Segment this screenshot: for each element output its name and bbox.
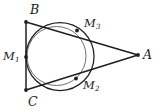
geometry-svg [0, 0, 160, 111]
segment-CA [26, 55, 138, 90]
tangent-point-M3 [75, 29, 79, 33]
label-M2: M2 [83, 80, 99, 92]
label-B: B [30, 4, 39, 17]
tangent-point-M1 [24, 55, 28, 59]
vertex-point-C [24, 88, 28, 92]
label-C: C [28, 96, 38, 109]
label-A: A [143, 49, 152, 62]
vertex-point-A [136, 53, 140, 57]
tangent-point-M2 [74, 77, 78, 81]
segment-BA [26, 22, 138, 55]
second-circle [27, 27, 86, 86]
geometry-figure-canvas: A B C M1 M2 M3 [0, 0, 160, 111]
vertex-point-B [24, 20, 28, 24]
label-M3: M3 [84, 18, 100, 30]
label-M1: M1 [3, 51, 19, 63]
